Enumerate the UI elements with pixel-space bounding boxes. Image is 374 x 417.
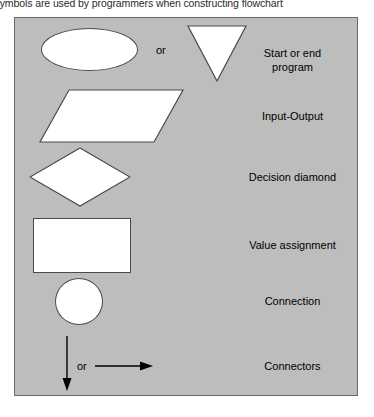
or-label-start-end: or [156, 44, 166, 56]
or-label-connectors: or [77, 360, 87, 372]
row-label-value-assignment: Value assignment [230, 238, 355, 252]
arrow-down-icon [63, 336, 72, 391]
row-label-start-end: Start or end program [230, 46, 355, 74]
parallelogram-shape [39, 89, 184, 143]
row-label-input-output: Input-Output [230, 109, 355, 123]
circle-shape [55, 278, 103, 325]
connector-arrows-group [51, 334, 191, 394]
row-label-connection: Connection [230, 294, 355, 308]
rectangle-shape [33, 218, 131, 273]
figure-caption: e symbols are used by programmers when c… [0, 0, 374, 15]
ellipse-shape [41, 28, 138, 71]
flowchart-symbols-panel: or Start or end program Input-Output Dec… [14, 17, 358, 396]
row-label-decision-diamond: Decision diamond [230, 170, 355, 184]
row-label-connectors: Connectors [230, 359, 355, 373]
diamond-shape [29, 147, 131, 207]
figure-caption-text: e symbols are used by programmers when c… [0, 0, 283, 9]
arrow-right-icon [95, 362, 153, 371]
